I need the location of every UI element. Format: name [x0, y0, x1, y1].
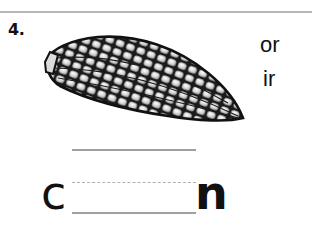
word-completion: c n — [0, 170, 312, 230]
choice-or: or — [260, 32, 280, 58]
word-suffix: n — [195, 170, 228, 216]
write-line[interactable] — [72, 149, 196, 151]
top-divider — [0, 11, 312, 13]
corn-cob-icon — [38, 28, 250, 128]
blank-baseline[interactable] — [72, 212, 196, 214]
choice-ir: ir — [263, 66, 275, 92]
blank-midline — [72, 182, 196, 183]
word-prefix: c — [41, 170, 66, 216]
item-number: 4. — [8, 20, 24, 39]
